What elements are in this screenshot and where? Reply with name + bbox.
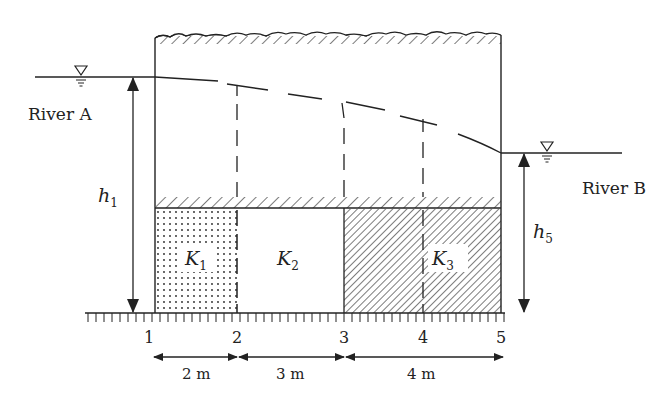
top-ground-surface — [140, 20, 520, 44]
section-2-label: 2 — [232, 328, 242, 347]
river-a-label: River A — [28, 104, 92, 124]
section-3-label: 3 — [339, 328, 349, 347]
h1-label: h1 — [98, 184, 118, 210]
section-1-label: 1 — [144, 328, 154, 347]
zone-k2-label: K2 — [276, 247, 299, 273]
section-5-label: 5 — [496, 328, 506, 347]
water-table-curve — [155, 77, 501, 153]
diagram-canvas: River A River B h1 h5 K1 K2 K3 1 2 3 4 5… — [0, 0, 671, 404]
dimension-2m-label: 2 m — [182, 365, 211, 383]
section-4-label: 4 — [418, 328, 428, 347]
water-table-symbol-icon — [541, 142, 553, 151]
river-a — [35, 66, 155, 86]
dimension-4m-label: 4 m — [407, 365, 436, 383]
dimension-3m-label: 3 m — [276, 365, 305, 383]
h5-label: h5 — [533, 220, 553, 246]
river-b-label: River B — [582, 178, 646, 198]
water-table-symbol-icon — [75, 66, 87, 75]
confining-layer — [156, 197, 501, 208]
base-ground-line — [85, 313, 505, 322]
river-b — [501, 142, 622, 162]
